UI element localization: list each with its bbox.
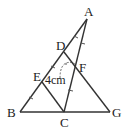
measurement-label: 4cm bbox=[45, 73, 66, 87]
arc-dot bbox=[65, 63, 67, 65]
label-B: B bbox=[7, 105, 16, 120]
label-A: A bbox=[84, 4, 94, 19]
label-E: E bbox=[33, 69, 41, 84]
tick-AF bbox=[81, 43, 85, 44]
label-G: G bbox=[112, 105, 121, 120]
label-C: C bbox=[60, 115, 69, 130]
geometry-diagram: A B C D E F G 4cm bbox=[0, 0, 128, 131]
label-D: D bbox=[56, 38, 65, 53]
label-F: F bbox=[79, 60, 86, 75]
